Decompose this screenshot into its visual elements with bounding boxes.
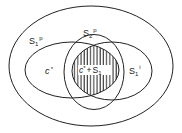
right-set-label: S1i [129, 64, 141, 77]
vertical-set-label: S2p [83, 27, 97, 39]
left-set-label: c* [45, 66, 54, 76]
venn-diagram: S1p S2p c* S1i c*+S1 [0, 0, 182, 133]
outer-set-label: S1p [29, 35, 43, 47]
